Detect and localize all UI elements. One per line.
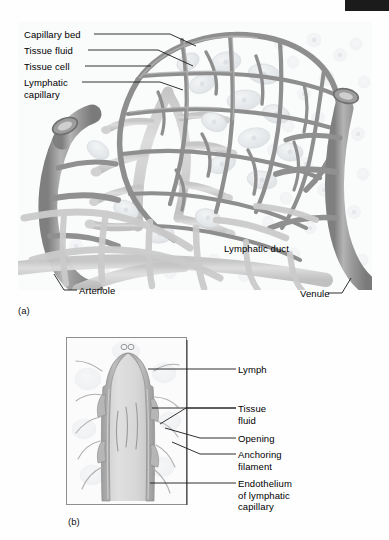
label-tissue-cell: Tissue cell <box>24 61 70 73</box>
label-anchoring-filament: Anchoring filament <box>238 449 282 472</box>
panel-letter-b: (b) <box>68 516 80 527</box>
panel-a-illustration <box>18 22 372 290</box>
label-arteriole: Arteriole <box>79 285 115 297</box>
label-capillary-bed: Capillary bed <box>24 29 81 41</box>
label-lymphatic-duct: Lymphatic duct <box>224 243 289 255</box>
label-tissue-fluid-b: Tissue fluid <box>238 403 266 426</box>
panel-letter-a: (a) <box>18 305 30 316</box>
label-opening: Opening <box>238 433 275 445</box>
label-lymph: Lymph <box>238 364 267 376</box>
figure-page: Capillary bed Tissue fluid Tissue cell L… <box>0 0 389 540</box>
label-venule: Venule <box>300 288 330 300</box>
label-lymphatic-capillary: Lymphatic capillary <box>24 77 68 100</box>
scan-artifact-bar <box>345 0 389 11</box>
label-tissue-fluid-a: Tissue fluid <box>24 45 73 57</box>
label-endothelium: Endothelium of lymphatic capillary <box>238 478 292 513</box>
panel-b-illustration <box>66 337 187 505</box>
